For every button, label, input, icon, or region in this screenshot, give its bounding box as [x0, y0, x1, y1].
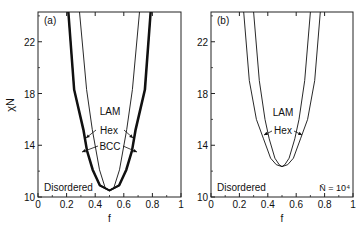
hex-label: Hex	[100, 125, 118, 136]
nbar-label: N̄ = 10⁴	[319, 183, 350, 193]
x-tick-label: 0.6	[117, 199, 131, 210]
x-tick-label: 0	[35, 199, 41, 210]
bcc-label: BCC	[99, 141, 120, 152]
disordered-label: Disordered	[44, 182, 93, 193]
plot-frame	[38, 12, 181, 197]
y-tick-label: 14	[24, 140, 36, 151]
y-tick-label: 14	[197, 140, 209, 151]
phase-boundary-curve	[254, 12, 311, 167]
plot-frame	[211, 12, 353, 197]
x-tick-label: 1	[350, 199, 356, 210]
x-axis-label: f	[281, 213, 284, 224]
y-tick-label: 18	[24, 89, 36, 100]
phase-boundary-curve	[69, 12, 151, 191]
lam-label: LAM	[273, 107, 294, 118]
phase-boundary-curve	[68, 12, 151, 191]
disordered-label: Disordered	[217, 182, 266, 193]
x-tick-label: 0.4	[261, 199, 275, 210]
panel-label: (b)	[217, 15, 229, 26]
x-tick-label: 0.8	[318, 199, 332, 210]
y-tick-label: 22	[24, 37, 36, 48]
y-tick-label: 22	[197, 37, 209, 48]
x-tick-label: 0.2	[60, 199, 74, 210]
y-tick-label: 10	[24, 192, 36, 203]
x-tick-label: 0.4	[88, 199, 102, 210]
y-tick-label: 18	[197, 89, 209, 100]
y-tick-label: 10	[197, 192, 209, 203]
lam-label: LAM	[100, 106, 121, 117]
hex-label: Hex	[274, 125, 292, 136]
y-axis-label: χN	[4, 98, 16, 112]
x-axis-label: f	[108, 213, 111, 224]
x-tick-label: 1	[178, 199, 184, 210]
x-tick-label: 0	[208, 199, 214, 210]
x-tick-label: 0.6	[289, 199, 303, 210]
x-tick-label: 0.2	[232, 199, 246, 210]
phase-boundary-curve	[80, 12, 140, 191]
phase-diagram-figure: 00.20.40.60.8110141822f(a)00.20.40.60.81…	[0, 0, 364, 231]
panel-label: (a)	[44, 15, 56, 26]
x-tick-label: 0.8	[145, 199, 159, 210]
